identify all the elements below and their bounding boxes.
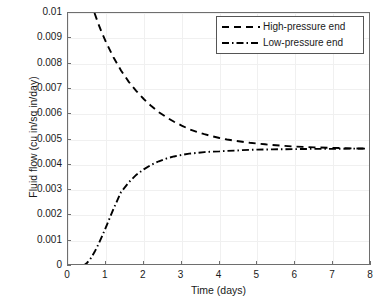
y-tick-mark bbox=[67, 37, 71, 38]
y-tick-label: 0.006 bbox=[18, 107, 62, 118]
x-tick-label: 8 bbox=[355, 269, 383, 280]
y-tick-mark bbox=[67, 265, 71, 266]
y-axis-label: Fluid flow (cu in/sq in/day) bbox=[27, 42, 39, 232]
y-tick-label: 0.002 bbox=[18, 208, 62, 219]
x-tick-label: 7 bbox=[317, 269, 347, 280]
legend-sample-dash-dot bbox=[221, 37, 261, 49]
x-tick-mark bbox=[219, 261, 220, 265]
x-tick-label: 5 bbox=[241, 269, 271, 280]
y-tick-label: 0 bbox=[18, 259, 62, 270]
legend-label-low-pressure-end: Low-pressure end bbox=[263, 37, 343, 49]
y-tick-label: 0.005 bbox=[18, 133, 62, 144]
y-tick-mark bbox=[67, 63, 71, 64]
y-tick-label: 0.001 bbox=[18, 234, 62, 245]
x-tick-mark bbox=[256, 261, 257, 265]
y-tick-mark bbox=[67, 164, 71, 165]
y-tick-mark bbox=[67, 113, 71, 114]
y-tick-label: 0.01 bbox=[18, 6, 62, 17]
y-tick-label: 0.004 bbox=[18, 158, 62, 169]
x-tick-label: 0 bbox=[52, 269, 82, 280]
y-tick-label: 0.007 bbox=[18, 82, 62, 93]
x-tick-mark bbox=[181, 261, 182, 265]
y-tick-mark bbox=[67, 88, 71, 89]
x-tick-label: 4 bbox=[204, 269, 234, 280]
legend-sample-dashed bbox=[221, 21, 261, 33]
y-tick-mark bbox=[67, 240, 71, 241]
series-low-pressure-end bbox=[83, 149, 367, 265]
x-axis-label: Time (days) bbox=[67, 284, 370, 296]
x-tick-label: 2 bbox=[128, 269, 158, 280]
x-tick-label: 3 bbox=[166, 269, 196, 280]
x-tick-mark bbox=[294, 261, 295, 265]
y-tick-mark bbox=[67, 12, 71, 13]
x-tick-mark bbox=[332, 261, 333, 265]
x-tick-mark bbox=[370, 261, 371, 265]
x-tick-mark bbox=[143, 261, 144, 265]
y-tick-mark bbox=[67, 214, 71, 215]
legend-entry-low-pressure-end: Low-pressure end bbox=[221, 35, 359, 51]
y-tick-mark bbox=[67, 189, 71, 190]
y-tick-label: 0.009 bbox=[18, 31, 62, 42]
y-tick-label: 0.008 bbox=[18, 57, 62, 68]
x-tick-mark bbox=[105, 261, 106, 265]
x-tick-label: 6 bbox=[279, 269, 309, 280]
legend: High-pressure end Low-pressure end bbox=[216, 16, 364, 54]
y-tick-label: 0.003 bbox=[18, 183, 62, 194]
chart-figure: 012345678 00.0010.0020.0030.0040.0050.00… bbox=[0, 0, 383, 304]
legend-entry-high-pressure-end: High-pressure end bbox=[221, 19, 359, 35]
x-tick-label: 1 bbox=[90, 269, 120, 280]
legend-label-high-pressure-end: High-pressure end bbox=[263, 21, 345, 33]
y-tick-mark bbox=[67, 139, 71, 140]
